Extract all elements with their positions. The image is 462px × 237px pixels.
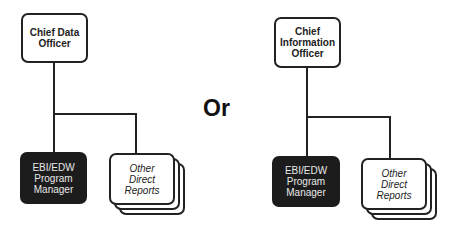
- other-direct-reports-box: Other Direct Reports: [109, 153, 175, 205]
- ebi-edw-program-manager-box: EBI/EDW Program Manager: [272, 156, 340, 207]
- box-label: Direct: [376, 179, 411, 190]
- box-label: Direct: [124, 174, 159, 185]
- box-label: Chief: [280, 26, 335, 37]
- chief-information-officer-box: Chief Information Officer: [274, 17, 341, 68]
- box-label: Other: [376, 168, 411, 179]
- box-label: Reports: [124, 185, 159, 196]
- box-label: Program: [32, 173, 74, 184]
- or-separator-label: Or: [203, 95, 230, 122]
- box-label: Program: [285, 176, 327, 187]
- other-direct-reports-box: Other Direct Reports: [361, 158, 427, 210]
- box-label: Manager: [285, 187, 327, 198]
- box-label: Chief Data: [30, 27, 79, 38]
- ebi-edw-program-manager-box: EBI/EDW Program Manager: [20, 152, 87, 204]
- connector-line: [306, 68, 308, 157]
- box-label: Officer: [280, 48, 335, 59]
- box-label: Information: [280, 37, 335, 48]
- box-label: EBI/EDW: [32, 162, 74, 173]
- chief-data-officer-box: Chief Data Officer: [21, 13, 88, 63]
- box-label: EBI/EDW: [285, 165, 327, 176]
- box-label: Reports: [376, 190, 411, 201]
- connector-line: [306, 116, 391, 118]
- connector-line: [53, 113, 137, 115]
- box-label: Officer: [30, 38, 79, 49]
- connector-line: [135, 113, 137, 154]
- box-label: Other: [124, 163, 159, 174]
- connector-line: [389, 116, 391, 159]
- box-label: Manager: [32, 184, 74, 195]
- connector-line: [53, 63, 55, 153]
